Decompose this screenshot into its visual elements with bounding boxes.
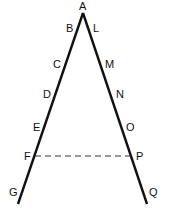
label-b: B	[66, 22, 73, 34]
right-line	[83, 13, 147, 204]
label-l: L	[93, 22, 99, 34]
label-p: P	[136, 150, 143, 162]
label-q: Q	[149, 186, 158, 198]
label-g: G	[9, 186, 18, 198]
label-a: A	[79, 0, 87, 12]
label-d: D	[43, 88, 51, 100]
label-f: F	[24, 150, 31, 162]
left-line	[18, 13, 83, 204]
label-o: O	[126, 121, 135, 133]
label-n: N	[116, 88, 124, 100]
label-e: E	[33, 121, 40, 133]
label-c: C	[53, 58, 61, 70]
diagram-canvas: A B C D E F G L M N O P Q	[0, 0, 172, 215]
label-m: M	[105, 58, 114, 70]
